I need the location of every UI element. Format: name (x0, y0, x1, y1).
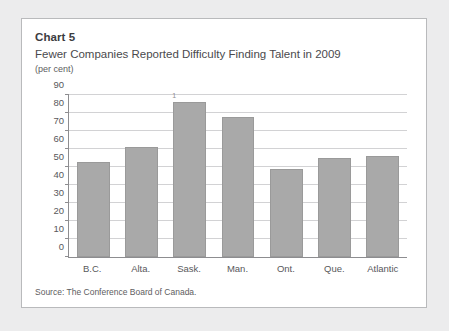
chart-units-label: (per cent) (35, 63, 426, 76)
y-axis-tick-label: 0 (59, 241, 64, 252)
y-axis-tick-label: 80 (53, 97, 64, 108)
y-axis-tick-label: 50 (53, 151, 64, 162)
x-axis-tick-label: Ont. (262, 263, 310, 274)
bar-footnote-marker: 1 (172, 92, 176, 99)
x-axis-tick-label: Sask. (165, 263, 213, 274)
bar (125, 147, 158, 257)
x-axis-tick-label: Man. (213, 263, 261, 274)
y-axis-tick-label: 20 (53, 205, 64, 216)
y-axis-tick-label: 90 (53, 79, 64, 90)
y-axis-tick-label: 60 (53, 133, 64, 144)
x-axis-tick-label: Alta. (116, 263, 164, 274)
source-note: Source: The Conference Board of Canada. (35, 287, 196, 297)
bar (270, 169, 303, 257)
bar-slot: 1 (166, 95, 214, 257)
bar-slot (262, 95, 310, 257)
bar (318, 158, 351, 257)
x-axis: B.C.Alta.Sask.Man.Ont.Que.Atlantic (68, 263, 407, 274)
x-axis-tick-label: B.C. (68, 263, 116, 274)
bar-slot (69, 95, 117, 257)
y-axis-tick-label: 70 (53, 115, 64, 126)
x-axis-tick-label: Que. (310, 263, 358, 274)
plot-area: 0102030405060708090 1 (68, 95, 407, 258)
bar-slot (310, 95, 358, 257)
bar-series: 1 (69, 95, 407, 257)
bar (77, 162, 110, 257)
chart-card: Chart 5 Fewer Companies Reported Difficu… (21, 18, 427, 308)
chart-plot: 0102030405060708090 1 B.C.Alta.Sask.Man.… (35, 87, 415, 283)
x-axis-tick-label: Atlantic (359, 263, 407, 274)
bar (222, 117, 255, 257)
y-axis-tick-label: 40 (53, 169, 64, 180)
bar-slot (214, 95, 262, 257)
chart-header: Chart 5 Fewer Companies Reported Difficu… (22, 19, 426, 76)
bar-slot (359, 95, 407, 257)
y-axis-tick-label: 10 (53, 223, 64, 234)
bar (366, 156, 399, 257)
chart-number: Chart 5 (35, 30, 426, 44)
bar-slot (117, 95, 165, 257)
bar (173, 102, 206, 257)
chart-title: Fewer Companies Reported Difficulty Find… (35, 46, 426, 62)
y-axis-tick-label: 30 (53, 187, 64, 198)
